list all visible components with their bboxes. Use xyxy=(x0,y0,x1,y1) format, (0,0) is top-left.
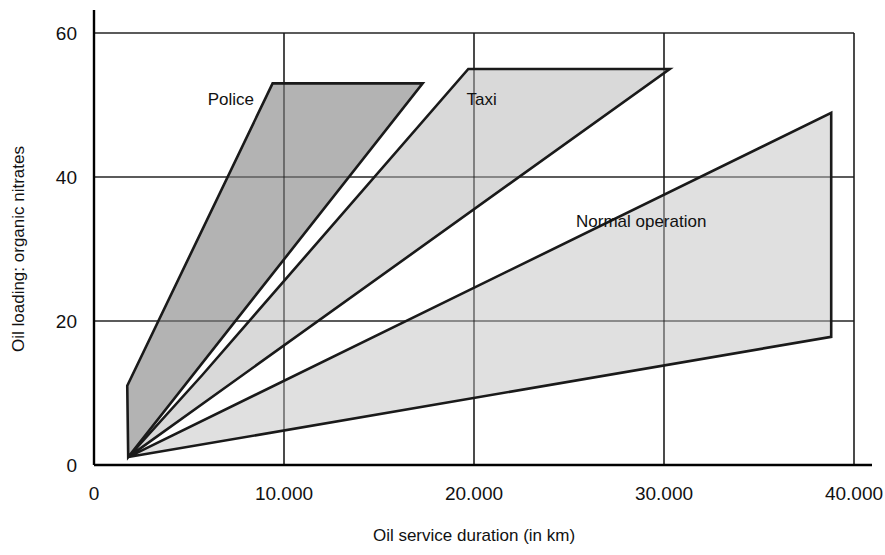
region-label-normal-operation: Normal operation xyxy=(576,212,706,231)
y-axis-title: Oil loading: organic nitrates xyxy=(9,146,28,352)
x-tick-label: 20.000 xyxy=(445,483,503,504)
region-label-police: Police xyxy=(208,90,254,109)
y-tick-label: 0 xyxy=(66,455,77,476)
y-tick-label: 40 xyxy=(56,167,77,188)
chart-page: 0204060010.00020.00030.00040.000Oil serv… xyxy=(0,0,885,555)
region-label-taxi: Taxi xyxy=(466,90,496,109)
y-tick-label: 20 xyxy=(56,311,77,332)
data-regions xyxy=(127,69,831,457)
x-tick-label: 0 xyxy=(89,483,100,504)
x-tick-label: 40.000 xyxy=(825,483,883,504)
x-tick-label: 10.000 xyxy=(255,483,313,504)
oil-loading-chart: 0204060010.00020.00030.00040.000Oil serv… xyxy=(0,0,885,555)
x-tick-label: 30.000 xyxy=(635,483,693,504)
x-axis-title: Oil service duration (in km) xyxy=(373,526,575,545)
y-tick-label: 60 xyxy=(56,23,77,44)
